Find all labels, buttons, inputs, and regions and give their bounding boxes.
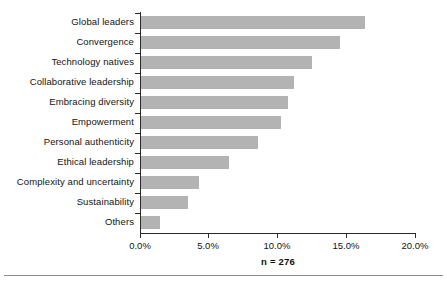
category-label: Collaborative leadership — [30, 72, 134, 92]
category-label: Complexity and uncertainty — [17, 172, 134, 192]
x-axis-tick — [140, 234, 141, 238]
category-label: Sustainability — [77, 192, 134, 212]
y-axis-tick — [135, 113, 140, 114]
y-axis-tick — [135, 213, 140, 214]
bar-collaborative-leadership — [141, 76, 294, 89]
bar-embracing-diversity — [141, 96, 288, 109]
bar-chart-figure: Global leaders Convergence Technology na… — [0, 0, 447, 284]
x-axis-label-4: 20.0% — [385, 240, 445, 251]
bar-rows: Global leaders Convergence Technology na… — [0, 0, 447, 234]
table-row: Global leaders — [0, 12, 447, 32]
bar-technology-natives — [141, 56, 312, 69]
table-row: Empowerment — [0, 112, 447, 132]
y-axis-tick — [135, 193, 140, 194]
y-axis-tick — [135, 13, 140, 14]
table-row: Sustainability — [0, 192, 447, 212]
bar-convergence — [141, 36, 340, 49]
category-label: Global leaders — [71, 12, 134, 32]
table-row: Collaborative leadership — [0, 72, 447, 92]
bar-ethical-leadership — [141, 156, 229, 169]
x-axis-label-1: 5.0% — [178, 240, 238, 251]
bar-others — [141, 216, 160, 229]
y-axis-tick — [135, 153, 140, 154]
table-row: Complexity and uncertainty — [0, 172, 447, 192]
y-axis-tick — [135, 73, 140, 74]
bar-empowerment — [141, 116, 281, 129]
category-label: Others — [105, 212, 134, 232]
table-row: Embracing diversity — [0, 92, 447, 112]
x-axis-tick — [346, 234, 347, 238]
bar-complexity-and-uncertainty — [141, 176, 199, 189]
table-row: Others — [0, 212, 447, 232]
category-label: Convergence — [76, 32, 134, 52]
y-axis-tick — [135, 173, 140, 174]
y-axis-tick — [135, 133, 140, 134]
category-label: Empowerment — [72, 112, 134, 132]
sample-size-note: n = 276 — [140, 256, 416, 267]
x-axis-tick — [415, 234, 416, 238]
x-axis-tick — [277, 234, 278, 238]
category-label: Embracing diversity — [49, 92, 134, 112]
y-axis-tick — [135, 53, 140, 54]
bar-global-leaders — [141, 16, 365, 29]
x-axis-tick — [208, 234, 209, 238]
category-label: Ethical leadership — [57, 152, 134, 172]
category-label: Technology natives — [51, 52, 134, 72]
table-row: Ethical leadership — [0, 152, 447, 172]
table-row: Personal authenticity — [0, 132, 447, 152]
footer-divider — [4, 275, 443, 276]
x-axis-label-2: 10.0% — [247, 240, 307, 251]
y-axis-tick — [135, 93, 140, 94]
table-row: Convergence — [0, 32, 447, 52]
bar-personal-authenticity — [141, 136, 258, 149]
x-axis-label-0: 0.0% — [110, 240, 170, 251]
category-label: Personal authenticity — [44, 132, 134, 152]
y-axis-tick — [135, 33, 140, 34]
table-row: Technology natives — [0, 52, 447, 72]
bar-sustainability — [141, 196, 188, 209]
x-axis-label-3: 15.0% — [316, 240, 376, 251]
